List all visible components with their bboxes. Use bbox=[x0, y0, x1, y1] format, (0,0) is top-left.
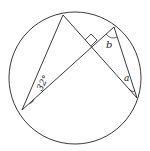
label-a: a bbox=[124, 73, 129, 83]
chord-ad bbox=[63, 15, 137, 98]
circle bbox=[9, 12, 141, 144]
chord-cb bbox=[22, 27, 114, 110]
angle-arc-b bbox=[106, 34, 117, 38]
geometry-diagram: 32° b a bbox=[0, 0, 150, 151]
label-32-degrees: 32° bbox=[35, 74, 51, 93]
chord-bd bbox=[114, 27, 137, 98]
label-b: b bbox=[106, 39, 112, 50]
chord-ca bbox=[22, 15, 63, 110]
